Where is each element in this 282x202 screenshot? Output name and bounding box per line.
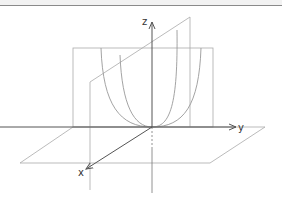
vertical-plane-rect [73,48,213,127]
3d-diagram: z y x [0,0,282,202]
y-axis-label: y [238,122,244,133]
xy-plane [20,127,265,163]
curves [101,30,201,127]
x-axis-label: x [78,167,84,178]
z-axis-label: z [142,16,147,27]
slanted-plane [90,17,190,190]
